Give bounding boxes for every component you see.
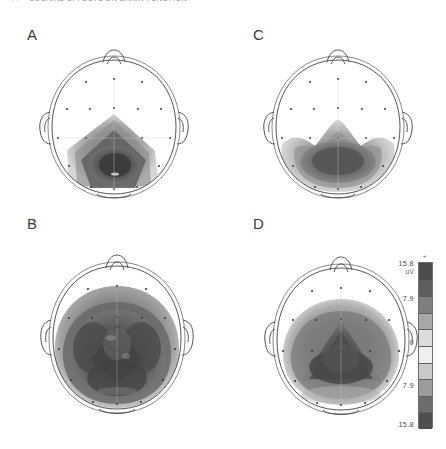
colorbar-segment bbox=[419, 263, 432, 280]
colorbar-segment bbox=[419, 363, 432, 379]
colorbar-segment bbox=[419, 396, 432, 412]
panel-b-label: B bbox=[27, 215, 37, 232]
topographic-map-a bbox=[31, 48, 197, 203]
colorbar-segment bbox=[419, 313, 432, 329]
colorbar-tick bbox=[419, 313, 432, 314]
panel-a-label: A bbox=[27, 26, 37, 43]
figure-panel-grid: A bbox=[0, 0, 446, 449]
colorbar-tick bbox=[419, 296, 432, 297]
colorbar-label-lower-mid: 7.9 bbox=[383, 381, 414, 390]
topographic-map-d bbox=[255, 255, 427, 417]
panel-c-label: C bbox=[253, 26, 264, 43]
colorbar-tick bbox=[419, 280, 432, 281]
colorbar-tick bbox=[419, 346, 432, 347]
topographic-map-c bbox=[255, 48, 421, 203]
colorbar-label-max: 15.8 bbox=[383, 259, 414, 268]
colorbar-tick bbox=[419, 396, 432, 397]
colorbar-label-min: 15.8 bbox=[383, 420, 414, 429]
colorbar-tick bbox=[419, 329, 432, 330]
colorbar-tick bbox=[419, 363, 432, 364]
colorbar-gradient bbox=[418, 262, 433, 428]
colorbar-top-marker: + bbox=[423, 253, 427, 259]
panel-d-label: D bbox=[253, 215, 264, 232]
colorbar-tick bbox=[419, 412, 432, 413]
colorbar-label-zero: 0 bbox=[383, 338, 414, 347]
colorbar-unit: uV bbox=[383, 268, 414, 275]
colorbar-label-upper-mid: 7.9 bbox=[383, 294, 414, 303]
colorbar-tick bbox=[419, 379, 432, 380]
colorbar-segment bbox=[419, 296, 432, 313]
colorbar-segment bbox=[419, 346, 432, 363]
voltage-scale: + bbox=[418, 262, 433, 428]
colorbar-segment bbox=[419, 329, 432, 346]
topographic-map-b bbox=[31, 252, 203, 417]
colorbar-segment bbox=[419, 412, 432, 429]
colorbar-segment bbox=[419, 280, 432, 296]
colorbar-segment bbox=[419, 379, 432, 396]
